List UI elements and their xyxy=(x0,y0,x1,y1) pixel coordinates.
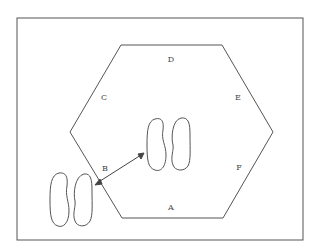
inner-bean-pair xyxy=(147,118,190,171)
outer-bean-right xyxy=(74,174,92,226)
inner-bean-right xyxy=(172,118,190,170)
label-c: C xyxy=(101,93,107,102)
arrow-head-end xyxy=(138,153,144,159)
diagram-canvas: D C E B F A xyxy=(0,0,316,245)
outer-bean-pair xyxy=(50,173,92,227)
hexagon xyxy=(70,45,273,218)
label-e: E xyxy=(235,93,241,102)
inner-bean-left xyxy=(147,119,166,171)
label-d: D xyxy=(168,55,174,64)
outer-bean-left xyxy=(50,173,69,227)
label-a: A xyxy=(167,203,174,212)
label-f: F xyxy=(236,163,242,172)
label-b: B xyxy=(102,164,108,173)
outer-frame xyxy=(17,18,303,240)
